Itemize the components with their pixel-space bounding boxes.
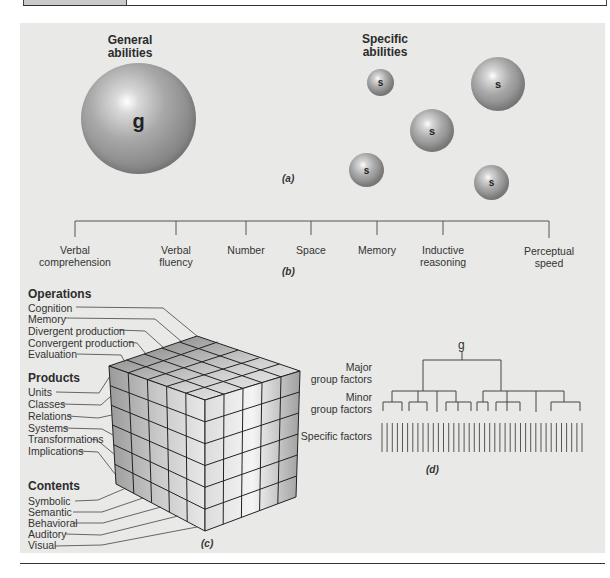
bottom-rule	[20, 563, 605, 564]
panel-d-hierarchy-tree	[0, 0, 610, 578]
caption-d: (d)	[426, 464, 439, 475]
